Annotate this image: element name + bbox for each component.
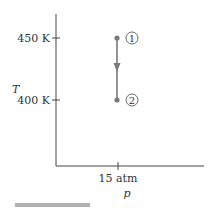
state-point-2 (114, 97, 119, 102)
x-tick-label-15: 15 atm (99, 172, 138, 185)
state-point-1 (114, 35, 119, 40)
y-tick-label-450: 450 K (17, 32, 50, 45)
arrow-down-icon (114, 63, 121, 72)
tp-diagram: 450 K 400 K T 15 atm p 1 2 (0, 0, 215, 208)
x-axis-label: p (123, 187, 130, 200)
bottom-bar (15, 203, 90, 207)
y-tick-label-400: 400 K (17, 94, 50, 107)
state-label-2: 2 (129, 95, 135, 106)
state-label-1: 1 (129, 33, 135, 44)
